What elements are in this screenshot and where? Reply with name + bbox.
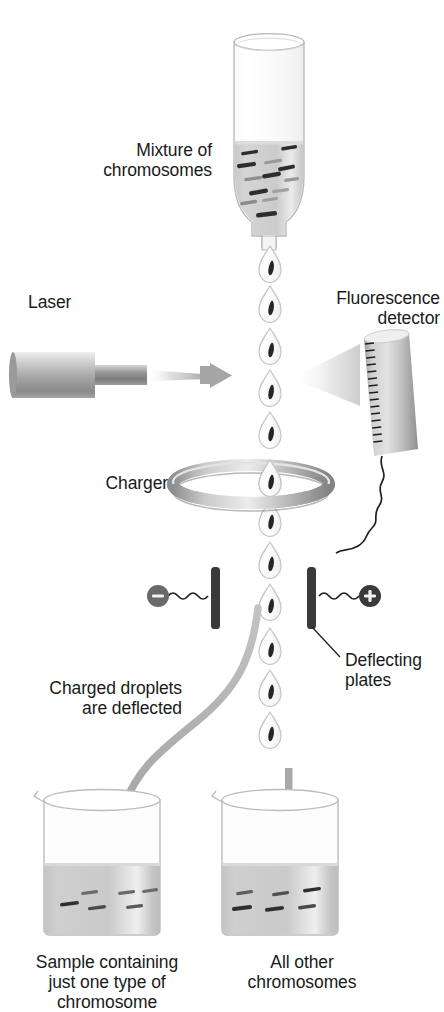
label-mixture-of-chromosomes: Mixture of chromosomes bbox=[42, 140, 212, 180]
label-fluorescence-detector: Fluorescence detector bbox=[276, 288, 440, 328]
beaker-left-spout bbox=[34, 791, 44, 802]
fluorescence-detector bbox=[292, 327, 418, 553]
deflecting-plates-callout-line bbox=[312, 627, 340, 657]
sample-tube bbox=[232, 34, 306, 251]
label-laser: Laser bbox=[28, 292, 71, 312]
wire-negative bbox=[168, 593, 208, 599]
charger-ring bbox=[173, 460, 329, 511]
detector-signal-wire bbox=[336, 456, 384, 553]
detector-light-cone bbox=[292, 344, 360, 406]
laser-source bbox=[9, 352, 232, 398]
label-charger: Charger bbox=[70, 473, 168, 493]
wire-positive bbox=[319, 593, 359, 599]
plate-positive bbox=[307, 567, 316, 629]
label-charged-droplets-deflected: Charged droplets are deflected bbox=[6, 678, 182, 718]
beaker-right-spout bbox=[212, 791, 222, 802]
laser-beam-arrow bbox=[200, 363, 232, 388]
label-beaker-left-caption: Sample containing just one type of chrom… bbox=[12, 952, 202, 1012]
label-beaker-right-caption: All other chromosomes bbox=[212, 952, 392, 992]
plate-negative bbox=[211, 567, 220, 629]
beaker-left bbox=[34, 790, 164, 942]
beaker-right bbox=[212, 790, 342, 942]
label-deflecting-plates: Deflecting plates bbox=[345, 650, 422, 690]
